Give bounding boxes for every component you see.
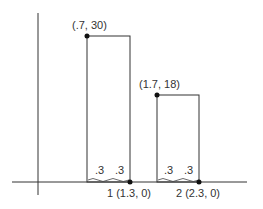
label-bottom-right-1: 1 (1.3, 0) [107, 187, 151, 199]
label-half-width: .3 [95, 164, 104, 176]
histogram-diagram: (.7, 30) (1.7, 18) 1 (1.3, 0) 2 (2.3, 0)… [0, 0, 263, 209]
point-top-left-2 [155, 93, 160, 98]
point-bottom-right-1 [128, 180, 133, 185]
bar-1 [87, 36, 130, 182]
point-top-left-1 [85, 34, 90, 39]
label-top-left-2: (1.7, 18) [139, 78, 180, 90]
label-half-width: .3 [184, 164, 193, 176]
label-half-width: .3 [115, 164, 124, 176]
brace-bar1 [88, 179, 129, 182]
label-top-left-1: (.7, 30) [72, 19, 107, 31]
brace-bar2 [158, 179, 199, 182]
label-half-width: .3 [164, 164, 173, 176]
label-bottom-right-2: 2 (2.3, 0) [176, 187, 220, 199]
point-bottom-right-2 [197, 180, 202, 185]
